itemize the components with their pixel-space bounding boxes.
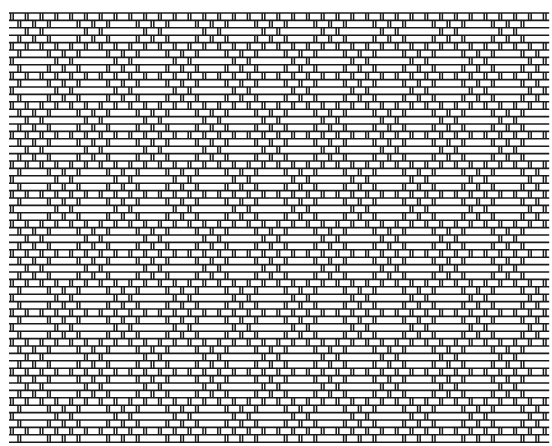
weave-mark	[336, 353, 339, 360]
weave-mark	[321, 339, 324, 346]
weave-mark	[492, 124, 495, 131]
weave-mark	[40, 235, 43, 242]
weave-mark	[255, 361, 258, 368]
weave-mark	[210, 154, 213, 161]
weave-mark	[277, 43, 280, 50]
weave-mark	[11, 368, 14, 375]
weave-mark	[403, 94, 406, 101]
weave-mark	[181, 94, 184, 101]
weave-mark	[469, 398, 472, 405]
weave-mark	[166, 420, 169, 427]
weave-mark	[514, 117, 517, 124]
weave-mark	[543, 309, 546, 316]
weave-mark	[151, 272, 154, 279]
weave-mark	[40, 383, 43, 390]
weave-mark	[403, 242, 406, 249]
weave-mark	[77, 257, 80, 264]
weave-mark	[225, 257, 228, 264]
weave-mark	[395, 191, 398, 198]
weave-mark	[136, 376, 139, 383]
weave-mark	[210, 361, 213, 368]
weave-mark	[469, 87, 472, 94]
weave-mark	[159, 427, 162, 434]
weave-mark	[514, 427, 517, 434]
weave-mark	[129, 294, 132, 301]
weave-mark	[484, 279, 487, 286]
weave-mark	[432, 20, 435, 27]
weave-mark	[440, 161, 443, 168]
weave-mark	[432, 272, 435, 279]
weave-mark	[18, 94, 21, 101]
weave-mark	[529, 131, 532, 138]
weave-mark	[492, 80, 495, 87]
weave-mark	[55, 427, 58, 434]
weave-mark	[218, 13, 221, 20]
weave-mark	[366, 72, 369, 79]
weave-mark	[292, 339, 295, 346]
weave-mark	[122, 316, 125, 323]
weave-mark	[469, 161, 472, 168]
weave-mark	[70, 294, 73, 301]
weave-mark	[425, 176, 428, 183]
weave-mark	[18, 183, 21, 190]
weave-mark	[462, 35, 465, 42]
weave-mark	[173, 72, 176, 79]
weave-mark	[247, 279, 250, 286]
weave-mark	[292, 368, 295, 375]
weave-mark	[492, 316, 495, 323]
weave-mark	[521, 198, 524, 205]
weave-mark	[351, 176, 354, 183]
weave-mark	[40, 131, 43, 138]
weave-mark	[114, 72, 117, 79]
weave-mark	[314, 124, 317, 131]
weave-mark	[181, 331, 184, 338]
weave-mark	[344, 124, 347, 131]
weave-mark	[492, 257, 495, 264]
weave-mark	[455, 309, 458, 316]
weave-mark	[136, 316, 139, 323]
weave-mark	[432, 65, 435, 72]
weave-mark	[166, 435, 169, 442]
weave-mark	[92, 346, 95, 353]
weave-mark	[136, 346, 139, 353]
weave-mark	[99, 28, 102, 35]
weave-mark	[85, 250, 88, 257]
weave-mark	[344, 228, 347, 235]
weave-mark	[462, 242, 465, 249]
weave-mark	[48, 80, 51, 87]
weave-mark	[188, 57, 191, 64]
weave-mark	[255, 198, 258, 205]
weave-mark	[70, 413, 73, 420]
weave-mark	[210, 257, 213, 264]
weave-mark	[247, 13, 250, 20]
weave-mark	[25, 43, 28, 50]
weave-mark	[107, 435, 110, 442]
weave-mark	[114, 57, 117, 64]
weave-mark	[381, 117, 384, 124]
weave-mark	[136, 302, 139, 309]
weave-mark	[233, 368, 236, 375]
weave-mark	[506, 361, 509, 368]
weave-mark	[336, 398, 339, 405]
weave-mark	[255, 65, 258, 72]
weave-mark	[40, 353, 43, 360]
weave-mark	[144, 220, 147, 227]
weave-mark	[107, 198, 110, 205]
weave-mark	[55, 398, 58, 405]
weave-mark	[196, 435, 199, 442]
weave-mark	[499, 146, 502, 153]
weave-mark	[373, 35, 376, 42]
weave-mark	[440, 398, 443, 405]
weave-mark	[262, 339, 265, 346]
weave-mark	[181, 168, 184, 175]
weave-mark	[351, 43, 354, 50]
weave-mark	[410, 161, 413, 168]
weave-mark	[321, 309, 324, 316]
weave-mark	[225, 302, 228, 309]
weave-mark	[284, 80, 287, 87]
weave-mark	[284, 361, 287, 368]
weave-mark	[33, 361, 36, 368]
weave-mark	[462, 94, 465, 101]
weave-mark	[307, 279, 310, 286]
weave-mark	[25, 72, 28, 79]
